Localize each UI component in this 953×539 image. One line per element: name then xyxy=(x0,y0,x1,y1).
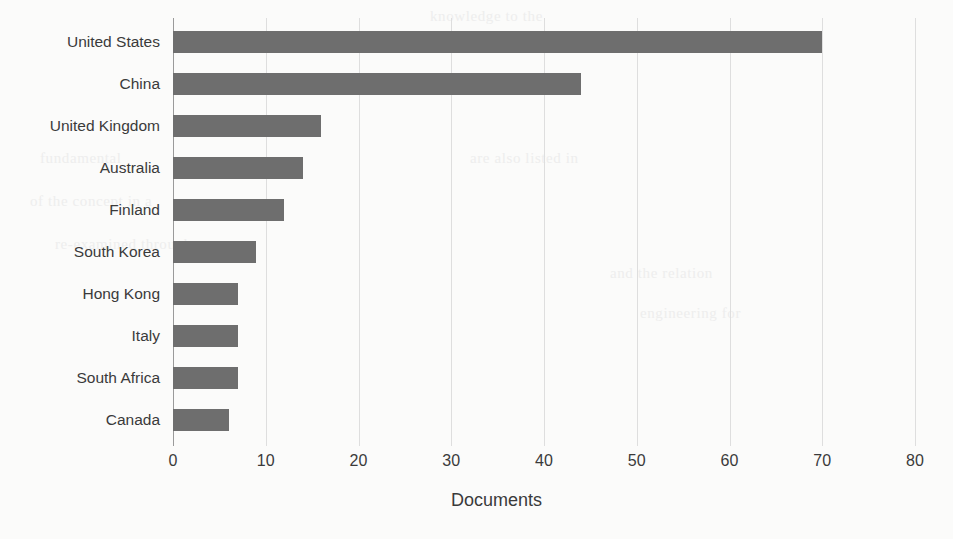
bar-australia xyxy=(173,157,303,179)
x-tick-label-0: 0 xyxy=(169,452,178,470)
bar-row xyxy=(173,409,915,451)
bar-row xyxy=(173,283,915,325)
bar-row xyxy=(173,157,915,199)
bar-series xyxy=(173,31,915,451)
bar-row xyxy=(173,199,915,241)
category-label-italy: Italy xyxy=(0,325,160,367)
bar-united-kingdom xyxy=(173,115,321,137)
x-tick-label-30: 30 xyxy=(442,452,460,470)
x-axis-ticks: 01020304050607080 xyxy=(173,452,915,478)
bar-italy xyxy=(173,325,238,347)
bar-south-africa xyxy=(173,367,238,389)
bar-chart-figure: fundamental of the concept in a re-exami… xyxy=(0,0,953,539)
x-tick-label-50: 50 xyxy=(628,452,646,470)
x-axis-title: Documents xyxy=(0,490,953,511)
bar-china xyxy=(173,73,581,95)
category-label-united-kingdom: United Kingdom xyxy=(0,115,160,157)
bar-row xyxy=(173,115,915,157)
bar-united-states xyxy=(173,31,822,53)
category-label-canada: Canada xyxy=(0,409,160,451)
category-label-finland: Finland xyxy=(0,199,160,241)
bar-row xyxy=(173,325,915,367)
bar-finland xyxy=(173,199,284,221)
x-tick-label-80: 80 xyxy=(906,452,924,470)
category-axis-labels: United StatesChinaUnited KingdomAustrali… xyxy=(0,31,160,451)
x-axis-title-text: Documents xyxy=(451,490,542,511)
bar-row xyxy=(173,31,915,73)
bar-row xyxy=(173,367,915,409)
bar-row xyxy=(173,241,915,283)
bar-hong-kong xyxy=(173,283,238,305)
category-label-united-states: United States xyxy=(0,31,160,73)
x-tick-label-10: 10 xyxy=(257,452,275,470)
category-label-hong-kong: Hong Kong xyxy=(0,283,160,325)
x-tick-label-60: 60 xyxy=(721,452,739,470)
x-tick-label-20: 20 xyxy=(350,452,368,470)
category-label-australia: Australia xyxy=(0,157,160,199)
bar-south-korea xyxy=(173,241,256,263)
category-label-china: China xyxy=(0,73,160,115)
x-tick-label-70: 70 xyxy=(813,452,831,470)
category-label-south-africa: South Africa xyxy=(0,367,160,409)
bar-row xyxy=(173,73,915,115)
category-label-south-korea: South Korea xyxy=(0,241,160,283)
gridline-80 xyxy=(915,18,916,446)
x-tick-label-40: 40 xyxy=(535,452,553,470)
bar-canada xyxy=(173,409,229,431)
plot-area xyxy=(173,18,915,446)
